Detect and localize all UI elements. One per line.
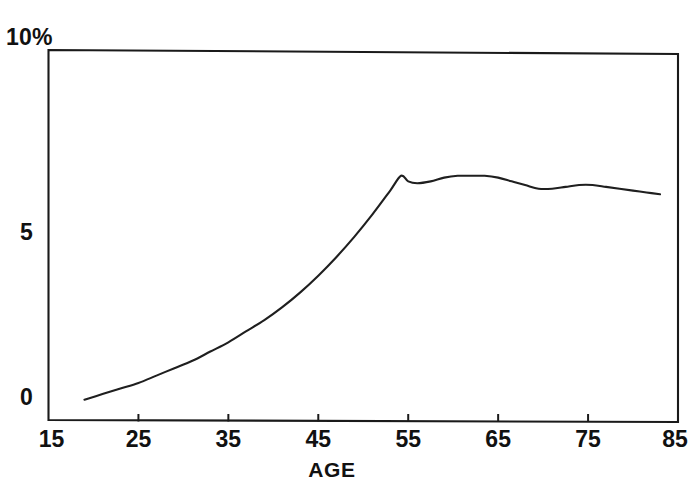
plot-frame: [49, 50, 679, 422]
plot-border: [49, 50, 679, 422]
data-series-line: [84, 176, 660, 400]
plot-area: [0, 0, 700, 492]
chart-figure: 10% 5 0 1525354555657585 AGE: [0, 0, 700, 492]
